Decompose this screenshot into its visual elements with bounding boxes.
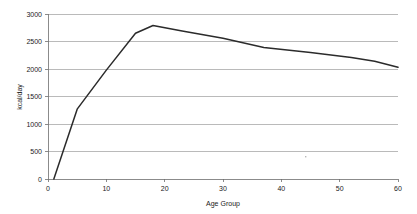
artifact-speck (305, 156, 306, 157)
x-tick-label-30: 30 (219, 185, 227, 192)
y-tick-label-0: 0 (38, 176, 42, 183)
y-tick-label-2000: 2000 (26, 66, 42, 73)
x-tick-label-10: 10 (102, 185, 110, 192)
line-chart: 050010001500200025003000 0102030405060 A… (0, 0, 417, 214)
chart-background (0, 0, 417, 214)
x-tick-label-20: 20 (161, 185, 169, 192)
y-tick-label-1000: 1000 (26, 121, 42, 128)
y-tick-label-2500: 2500 (26, 38, 42, 45)
y-tick-label-3000: 3000 (26, 11, 42, 18)
chart-container: 050010001500200025003000 0102030405060 A… (0, 0, 417, 214)
x-axis-title: Age Group (206, 200, 240, 208)
y-axis-title: kcal/day (16, 84, 24, 110)
y-tick-label-500: 500 (30, 148, 42, 155)
x-tick-label-60: 60 (394, 185, 402, 192)
y-tick-label-1500: 1500 (26, 93, 42, 100)
x-tick-label-0: 0 (46, 185, 50, 192)
x-tick-label-40: 40 (277, 185, 285, 192)
x-tick-label-50: 50 (336, 185, 344, 192)
